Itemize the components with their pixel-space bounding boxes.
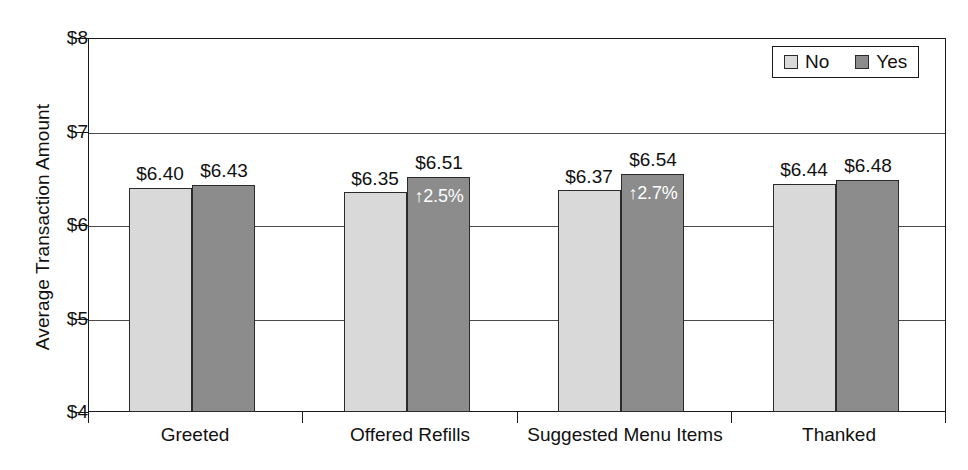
bar-value-thanked-no: $6.44 bbox=[780, 159, 828, 181]
x-axis-label-suggested-menu-items: Suggested Menu Items bbox=[527, 424, 722, 446]
bars-layer: $6.40 $6.43 $6.35 $6.51 ↑2.5% $6.37 $6.5… bbox=[88, 38, 946, 412]
bar-chart: Average Transaction Amount $8 $7 $6 $5 $… bbox=[0, 0, 968, 470]
x-axis-label-thanked: Thanked bbox=[802, 424, 876, 446]
bar-group-thanked: $6.44 $6.48 bbox=[731, 38, 946, 412]
y-tick-label-6: $6 bbox=[40, 214, 88, 236]
caption-sliver bbox=[6, 452, 426, 468]
legend-item-yes[interactable]: Yes bbox=[855, 52, 907, 71]
bar-value-greeted-yes: $6.43 bbox=[200, 160, 248, 182]
legend-swatch-yes-icon bbox=[855, 55, 869, 69]
bar-thanked-no[interactable] bbox=[773, 184, 836, 412]
y-axis-ticks: $8 $7 $6 $5 $4 bbox=[0, 0, 88, 470]
bar-thanked-yes[interactable] bbox=[836, 180, 899, 412]
bar-group-greeted: $6.40 $6.43 bbox=[88, 38, 302, 412]
x-tick-mark-4 bbox=[945, 412, 946, 423]
y-tick-label-4: $4 bbox=[40, 401, 88, 423]
bar-value-offered-refills-no: $6.35 bbox=[351, 168, 399, 190]
legend-item-no[interactable]: No bbox=[784, 52, 829, 71]
bar-group-offered-refills: $6.35 $6.51 ↑2.5% bbox=[302, 38, 517, 412]
bar-value-greeted-no: $6.40 bbox=[136, 163, 184, 185]
bar-greeted-no[interactable] bbox=[129, 188, 192, 413]
bar-value-thanked-yes: $6.48 bbox=[844, 155, 892, 177]
bar-group-suggested-menu-items: $6.37 $6.54 ↑2.7% bbox=[517, 38, 731, 412]
x-tick-mark-2 bbox=[517, 412, 518, 423]
bar-value-suggested-menu-items-yes: $6.54 bbox=[629, 149, 677, 171]
bar-greeted-yes[interactable] bbox=[192, 185, 255, 412]
legend-label-no: No bbox=[805, 52, 829, 71]
legend-swatch-no-icon bbox=[784, 55, 798, 69]
x-tick-mark-0 bbox=[88, 412, 89, 423]
y-tick-label-5: $5 bbox=[40, 308, 88, 330]
y-tick-label-8: $8 bbox=[40, 27, 88, 49]
bar-suggested-menu-items-yes[interactable] bbox=[621, 174, 684, 412]
x-tick-mark-3 bbox=[731, 412, 732, 423]
bar-value-suggested-menu-items-no: $6.37 bbox=[565, 166, 613, 188]
x-tick-mark-1 bbox=[302, 412, 303, 423]
legend-label-yes: Yes bbox=[876, 52, 907, 71]
x-axis-label-offered-refills: Offered Refills bbox=[350, 424, 470, 446]
bar-offered-refills-no[interactable] bbox=[344, 192, 407, 412]
x-axis-label-greeted: Greeted bbox=[161, 424, 230, 446]
legend: No Yes bbox=[772, 46, 919, 78]
bar-offered-refills-yes[interactable] bbox=[407, 177, 470, 412]
bar-delta-suggested-menu-items: ↑2.7% bbox=[628, 183, 677, 204]
bar-value-offered-refills-yes: $6.51 bbox=[415, 152, 463, 174]
bar-delta-offered-refills: ↑2.5% bbox=[414, 186, 463, 207]
bar-suggested-menu-items-no[interactable] bbox=[558, 190, 621, 412]
x-axis-ticks bbox=[88, 412, 946, 424]
y-tick-label-7: $7 bbox=[40, 121, 88, 143]
